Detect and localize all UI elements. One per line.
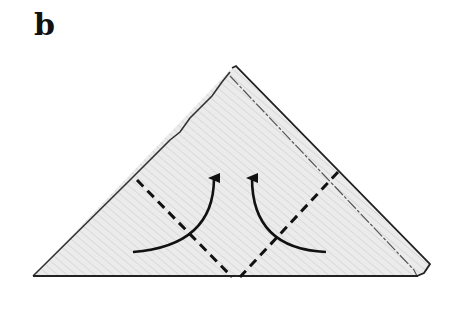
fold-diagram [0, 0, 454, 316]
napkin-triangle [33, 68, 430, 276]
